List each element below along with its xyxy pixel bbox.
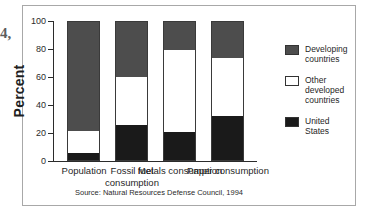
bar-paper-consumption[interactable] [211,21,244,161]
bar-segment-other-developed-countries [68,131,99,153]
bar-segment-united-states [164,132,195,160]
y-tick-mark [48,133,53,134]
bar-segment-united-states [68,153,99,160]
bar-segment-developing-countries [68,22,99,131]
y-axis-title: Percent [11,65,27,118]
chart-legend: Developing countries Other developed cou… [285,44,377,147]
y-tick-mark [48,49,53,50]
bar-segment-developing-countries [164,22,195,50]
legend-swatch-icon-united-states [285,117,299,127]
y-tick-mark [48,161,53,162]
bar-fossil-fuel-consumption[interactable] [115,21,148,161]
bar-segment-developing-countries [212,22,243,58]
x-axis-label-paper: Paper consumption [184,165,272,177]
bar-segment-developing-countries [116,22,147,77]
legend-swatch-icon-other-developed [285,76,299,86]
legend-item-developing-countries[interactable]: Developing countries [285,44,377,64]
y-axis-line [53,21,54,161]
y-tick-mark [48,21,53,22]
x-axis-line [53,161,257,162]
bar-metals-consumption[interactable] [163,21,196,161]
bar-segment-other-developed-countries [164,50,195,133]
legend-label: United States [305,116,330,136]
y-tick-mark [48,77,53,78]
legend-swatch-icon-developing [285,45,299,55]
y-tick-label: 60 [36,72,46,82]
legend-item-united-states[interactable]: United States [285,116,377,136]
source-note: Source: Natural Resources Defense Counci… [75,188,243,197]
y-tick-label: 40 [36,100,46,110]
legend-item-other-developed-countries[interactable]: Other developed countries [285,75,377,105]
legend-label: Other developed countries [305,75,344,105]
bar-population[interactable] [67,21,100,161]
y-tick-label: 20 [36,128,46,138]
y-tick-mark [48,105,53,106]
y-tick-label: 100 [31,16,46,26]
bar-segment-united-states [212,116,243,160]
legend-label: Developing countries [305,44,348,64]
bar-segment-united-states [116,125,147,160]
page-margin-bleed-text: 4, [0,22,16,44]
y-tick-label: 80 [36,44,46,54]
bar-segment-other-developed-countries [116,77,147,125]
figure-frame: Percent 0 20 40 60 80 100 [22,5,356,206]
plot-area: Percent 0 20 40 60 80 100 [53,21,251,161]
bar-segment-other-developed-countries [212,58,243,116]
